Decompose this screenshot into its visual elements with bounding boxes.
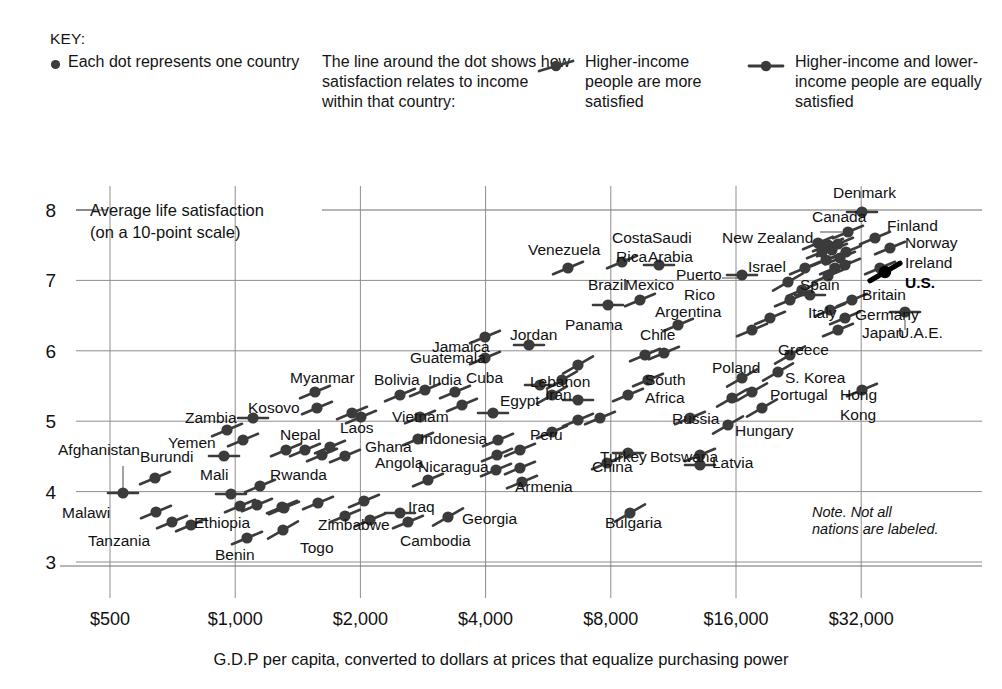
- point-label-zambia: Zambia: [185, 409, 237, 426]
- data-point-georgia[interactable]: [433, 508, 463, 525]
- point-label-britain: Britain: [862, 286, 906, 303]
- chart-root: KEY: Each dot represents one country The…: [0, 0, 1002, 689]
- data-point-kosovo[interactable]: [302, 402, 332, 414]
- svg-text:Note. Not all: Note. Not all: [812, 504, 893, 520]
- point-label-south-africa-line2: Africa: [645, 389, 685, 406]
- data-point-finland[interactable]: [860, 232, 890, 244]
- point-label-portugal: Portugal: [770, 386, 828, 403]
- data-point-malawi[interactable]: [141, 506, 171, 518]
- y-tick-3: 3: [45, 552, 56, 573]
- data-point-nicaragua[interactable]: [413, 474, 443, 486]
- point-label-argentina: Argentina: [655, 303, 722, 320]
- data-point-venezuela[interactable]: [553, 262, 583, 274]
- y-tick-5: 5: [45, 411, 56, 432]
- data-point-egypt[interactable]: [478, 407, 508, 418]
- point-label-vietnam: Vietnam: [392, 408, 449, 425]
- point-label-nepal: Nepal: [280, 426, 321, 443]
- y-axis-title-line2: (on a 10-point scale): [90, 223, 240, 241]
- data-point-tanzania[interactable]: [157, 516, 187, 528]
- point-label-mexico: Mexico: [625, 276, 674, 293]
- data-point-yemen[interactable]: [209, 450, 239, 461]
- data-point-unlabeled-23[interactable]: [649, 347, 679, 359]
- point-label-norway: Norway: [905, 234, 958, 251]
- data-point-unlabeled-21[interactable]: [563, 414, 593, 426]
- data-point-norway[interactable]: [875, 242, 905, 254]
- data-point-ghana[interactable]: [267, 501, 297, 513]
- data-point-unlabeled-27[interactable]: [737, 324, 767, 336]
- point-label-india: India: [428, 371, 462, 388]
- point-label-chile: Chile: [640, 326, 675, 343]
- x-tick-8000: $8,000: [583, 609, 638, 629]
- point-label-tanzania: Tanzania: [88, 532, 150, 549]
- point-label-cambodia: Cambodia: [400, 532, 471, 549]
- point-label-hungary: Hungary: [735, 422, 794, 439]
- x-axis-title: G.D.P per capita, converted to dollars a…: [214, 650, 789, 668]
- data-point-unlabeled-13[interactable]: [447, 399, 477, 411]
- data-point-unlabeled-28[interactable]: [755, 312, 785, 324]
- data-point-brazil[interactable]: [593, 299, 623, 310]
- data-point-mali[interactable]: [216, 488, 246, 499]
- point-label-afghanistan: Afghanistan: [58, 441, 140, 458]
- x-axis-ticks: $500$1,000$2,000$4,000$8,000$16,000$32,0…: [90, 609, 894, 629]
- data-point-unlabeled-4[interactable]: [242, 499, 272, 511]
- y-axis-title: Average life satisfaction (on a 10-point…: [90, 201, 264, 241]
- data-point-myanmar[interactable]: [300, 386, 330, 398]
- point-label-canada: Canada: [812, 208, 867, 225]
- point-label-finland: Finland: [887, 217, 938, 234]
- point-label-latvia: Latvia: [712, 454, 754, 471]
- point-label-malawi: Malawi: [62, 504, 110, 521]
- point-label-israel: Israel: [748, 258, 786, 275]
- data-point-cluster-b2[interactable]: [775, 294, 805, 306]
- data-point-unlabeled-8[interactable]: [303, 497, 333, 509]
- x-tick-2000: $2,000: [333, 609, 388, 629]
- point-label-greece: Greece: [778, 341, 829, 358]
- point-label-bulgaria: Bulgaria: [605, 514, 662, 531]
- point-label-rwanda: Rwanda: [270, 466, 327, 483]
- point-label-ethiopia: Ethiopia: [194, 514, 250, 531]
- x-tick-500: $500: [90, 609, 130, 629]
- point-label-jamaica: Jamaica: [432, 338, 490, 355]
- point-label-puerto-rico: Puerto: [676, 266, 722, 283]
- data-point-burundi[interactable]: [140, 472, 170, 484]
- point-label-hong-kong-line2: Kong: [840, 406, 876, 423]
- data-point-cluster-b1[interactable]: [790, 262, 820, 274]
- y-axis-title-line1: Average life satisfaction: [90, 201, 264, 219]
- data-point-ethiopia[interactable]: [225, 500, 255, 512]
- data-point-togo[interactable]: [268, 521, 298, 538]
- point-label-yemen: Yemen: [168, 434, 216, 451]
- data-point-mexico[interactable]: [625, 294, 655, 306]
- point-label-spain: Spain: [800, 276, 840, 293]
- point-label-indonesia: Indonesia: [420, 430, 488, 447]
- point-label-iraq: Iraq: [408, 498, 435, 515]
- data-point-unlabeled-9[interactable]: [330, 450, 360, 462]
- x-tick-16000: $16,000: [703, 609, 768, 629]
- point-label-cuba: Cuba: [466, 369, 503, 386]
- point-label-angola: Angola: [375, 454, 424, 471]
- data-point-angola[interactable]: [307, 449, 337, 461]
- point-label-georgia: Georgia: [462, 510, 518, 527]
- y-tick-7: 7: [45, 270, 56, 291]
- point-label-laos: Laos: [340, 419, 374, 436]
- point-label-puerto-rico-line2: Rico: [684, 286, 715, 303]
- data-point-u-s-[interactable]: [870, 263, 900, 280]
- point-label-egypt: Egypt: [500, 392, 540, 409]
- data-point-afghanistan[interactable]: [108, 487, 138, 498]
- point-label-jordan: Jordan: [510, 326, 557, 343]
- x-tick-32000: $32,000: [829, 609, 894, 629]
- data-point-benin[interactable]: [232, 532, 262, 544]
- point-label-benin: Benin: [215, 546, 255, 563]
- point-label-s-korea: S. Korea: [785, 369, 846, 386]
- data-point-unlabeled-3[interactable]: [228, 434, 258, 446]
- data-point-unlabeled-24[interactable]: [613, 389, 643, 401]
- point-label-venezuela: Venezuela: [528, 241, 601, 258]
- data-point-japan[interactable]: [823, 324, 853, 336]
- point-label-mali: Mali: [200, 466, 228, 483]
- point-label-south-africa: South: [645, 371, 686, 388]
- point-label-hong-kong: Hong: [840, 386, 877, 403]
- point-label-u-a-e-: U.A.E.: [898, 324, 943, 341]
- point-label-brazil: Brazil: [588, 276, 627, 293]
- point-label-kosovo: Kosovo: [248, 399, 300, 416]
- data-point-unlabeled-11[interactable]: [349, 495, 379, 507]
- data-point-unlabeled-14[interactable]: [483, 434, 513, 446]
- point-label-turkey: Turkey: [600, 448, 647, 465]
